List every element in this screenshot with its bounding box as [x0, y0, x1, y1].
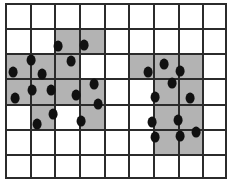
dot-marker-layer	[5, 3, 227, 179]
dot-marker-18	[49, 109, 58, 120]
dot-marker-12	[90, 79, 99, 90]
dot-marker-4	[9, 67, 18, 78]
figure-canvas	[0, 0, 232, 189]
dot-marker-24	[176, 131, 185, 142]
dot-marker-16	[186, 93, 195, 104]
dot-marker-11	[72, 90, 81, 101]
dot-marker-20	[33, 119, 42, 130]
dot-marker-22	[174, 115, 183, 126]
dot-marker-0	[54, 41, 63, 52]
dot-marker-21	[148, 117, 157, 128]
dot-marker-8	[176, 66, 185, 77]
dot-marker-7	[160, 59, 169, 70]
dot-marker-6	[144, 67, 153, 78]
dot-marker-3	[67, 56, 76, 67]
dot-marker-19	[77, 116, 86, 127]
dot-marker-2	[27, 55, 36, 66]
dot-marker-23	[151, 132, 160, 143]
dot-marker-1	[80, 40, 89, 51]
dot-marker-13	[11, 93, 20, 104]
dot-marker-5	[38, 69, 47, 80]
dot-marker-25	[192, 127, 201, 138]
grid-diagram	[5, 3, 227, 179]
dot-marker-10	[47, 85, 56, 96]
dot-marker-14	[94, 99, 103, 110]
dot-marker-15	[151, 92, 160, 103]
dot-marker-9	[28, 85, 37, 96]
dot-marker-17	[168, 78, 177, 89]
